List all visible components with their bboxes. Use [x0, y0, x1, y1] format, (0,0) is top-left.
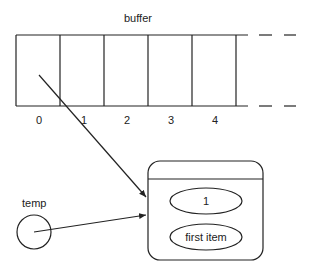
buffer-array — [16, 35, 296, 106]
index-0: 0 — [36, 114, 42, 126]
field-count-value: 1 — [203, 195, 209, 207]
temp-label: temp — [22, 197, 46, 209]
index-4: 4 — [212, 114, 218, 126]
buffer-diagram: buffer 0 1 2 3 4 temp 1 first item — [0, 0, 310, 271]
field-item-value: first item — [185, 231, 227, 243]
temp-pointer-arrow — [34, 215, 146, 232]
buffer-pointer-arrow — [39, 75, 146, 197]
index-2: 2 — [124, 114, 130, 126]
object-box: 1 first item — [148, 161, 263, 260]
buffer-label: buffer — [124, 12, 152, 24]
index-3: 3 — [168, 114, 174, 126]
index-labels: 0 1 2 3 4 — [36, 114, 218, 126]
